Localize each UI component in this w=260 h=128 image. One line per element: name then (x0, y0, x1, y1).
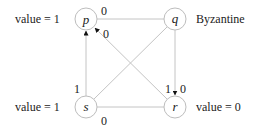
edge-label-sr: 0 (101, 114, 107, 128)
edge-label-rp: 0 (103, 27, 109, 41)
node-q: q (164, 8, 186, 30)
annotation-q: Byzantine (196, 12, 245, 26)
node-q-label: q (172, 11, 179, 26)
node-r: r (164, 96, 186, 118)
node-s: s (75, 96, 97, 118)
annotation-s: value = 1 (15, 100, 60, 114)
edge-label-qr-1: 1 (165, 82, 171, 96)
consensus-graph: p q s r value = 1 Byzantine value = 1 va… (0, 0, 260, 128)
node-s-label: s (83, 99, 88, 114)
annotation-r: value = 0 (196, 100, 241, 114)
edge-label-qr-0: 0 (180, 82, 186, 96)
edge-label-sp: 1 (74, 82, 80, 96)
node-p: p (75, 8, 97, 30)
edges (86, 19, 175, 107)
node-p-label: p (82, 12, 90, 27)
edge-label-pq: 0 (101, 4, 107, 18)
annotation-p: value = 1 (15, 12, 60, 26)
